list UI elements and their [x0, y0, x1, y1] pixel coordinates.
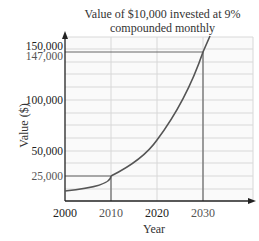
xtick-2030: 2030: [183, 206, 223, 221]
chart-plot: [0, 0, 259, 241]
ytick-25000: 25,000: [31, 171, 63, 182]
xtick-2020: 2020: [137, 206, 177, 221]
ytick-50000: 50,000: [31, 146, 63, 157]
x-axis-label: Year: [143, 222, 165, 237]
ytick-147000: 147,000: [26, 51, 63, 62]
y-axis-arrow-icon: [62, 31, 68, 39]
y-axis-label: Value ($): [17, 96, 32, 156]
xtick-2000: 2000: [45, 206, 85, 221]
xtick-2010: 2010: [91, 206, 131, 221]
